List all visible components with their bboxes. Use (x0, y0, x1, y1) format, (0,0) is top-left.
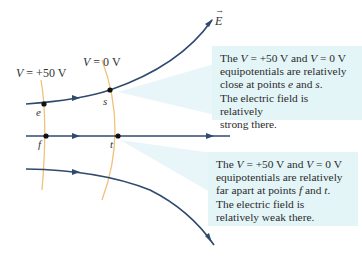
point-t-dot (115, 133, 120, 138)
callout-line: equipotentials are relatively (216, 171, 350, 184)
arrow-middle-2 (206, 133, 214, 139)
callout-line: The electric field is (216, 198, 350, 211)
callout-line: The V = +50 V and V = 0 V (220, 52, 354, 65)
arrow-top-1 (72, 95, 80, 101)
point-f-dot (43, 133, 48, 138)
arrow-bottom-1 (72, 169, 80, 175)
callout-line: close at points e and s. (220, 78, 354, 91)
callout-line: strong there. (220, 118, 354, 131)
field-diagram (0, 0, 362, 268)
callout-line: The electric field is relatively (220, 92, 354, 118)
point-label-f: f (38, 138, 41, 150)
point-e-dot (41, 101, 46, 106)
callout-line: The V = +50 V and V = 0 V (216, 158, 350, 171)
potential-label-zero: V = 0 V (83, 55, 121, 70)
callout-line: relatively weak there. (216, 211, 350, 224)
point-label-t: t (110, 138, 113, 150)
field-label-text: E (215, 14, 222, 28)
vector-arrow-icon: → (215, 5, 224, 15)
callout-line: equipotentials are relatively (220, 65, 354, 78)
callout-weak-field: The V = +50 V and V = 0 V equipotentials… (208, 152, 358, 226)
point-label-e: e (36, 106, 41, 118)
callout-line: far apart at points f and t. (216, 184, 350, 197)
point-s-dot (107, 87, 112, 92)
field-line-bottom (26, 169, 214, 245)
arrow-middle-1 (72, 133, 80, 139)
potential-label-plus50: V = +50 V (16, 66, 66, 81)
field-label: → E (215, 14, 222, 29)
arrow-top-2 (205, 19, 213, 27)
callout-strong-field: The V = +50 V and V = 0 V equipotentials… (212, 46, 362, 120)
point-label-s: s (103, 95, 107, 107)
potential-value: = +50 V (23, 66, 66, 80)
potential-value: = 0 V (90, 55, 120, 69)
